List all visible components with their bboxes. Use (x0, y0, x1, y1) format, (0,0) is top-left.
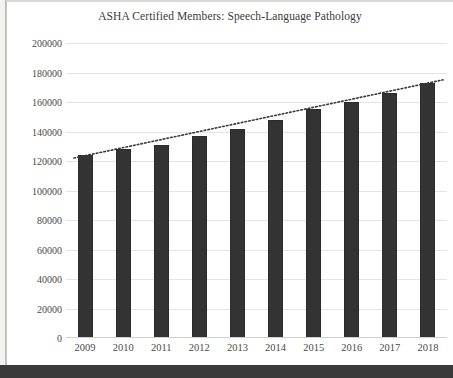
y-tick-label: 160000 (8, 97, 62, 108)
bar (268, 120, 283, 338)
y-axis-tick-labels: 0200004000060000800001000001200001400001… (7, 43, 62, 338)
y-tick-label: 100000 (8, 185, 62, 196)
gridline (66, 73, 447, 74)
x-tick-label: 2011 (141, 342, 181, 353)
x-tick-label: 2010 (103, 342, 143, 353)
x-axis-tick-labels: 2009201020112012201320142015201620172018 (66, 342, 447, 362)
x-tick-label: 2013 (217, 342, 257, 353)
x-tick-label: 2016 (332, 342, 372, 353)
bar (154, 145, 169, 338)
bar (306, 109, 321, 338)
x-tick-label: 2015 (294, 342, 334, 353)
chart-title: ASHA Certified Members: Speech-Language … (7, 10, 453, 22)
y-tick-label: 140000 (8, 126, 62, 137)
y-tick-label: 20000 (8, 303, 62, 314)
bar (344, 102, 359, 338)
bar (382, 93, 397, 338)
y-tick-label: 80000 (8, 215, 62, 226)
y-tick-label: 40000 (8, 274, 62, 285)
x-tick-label: 2009 (65, 342, 105, 353)
y-tick-label: 180000 (8, 67, 62, 78)
y-tick-label: 0 (8, 333, 62, 344)
x-tick-label: 2017 (370, 342, 410, 353)
gridline (66, 43, 447, 44)
bar (116, 149, 131, 338)
bar (230, 129, 245, 338)
y-tick-label: 120000 (8, 156, 62, 167)
x-tick-label: 2018 (408, 342, 448, 353)
x-tick-label: 2014 (256, 342, 296, 353)
plot-area (66, 43, 447, 338)
bar (420, 83, 435, 338)
bar (192, 136, 207, 338)
bar (78, 155, 93, 338)
chart-frame: ASHA Certified Members: Speech-Language … (6, 2, 453, 365)
scanned-chart-page: ASHA Certified Members: Speech-Language … (0, 0, 453, 378)
scan-bottom-band (0, 365, 453, 378)
x-tick-label: 2012 (179, 342, 219, 353)
x-axis-line (66, 337, 447, 338)
y-tick-label: 200000 (8, 38, 62, 49)
y-tick-label: 60000 (8, 244, 62, 255)
